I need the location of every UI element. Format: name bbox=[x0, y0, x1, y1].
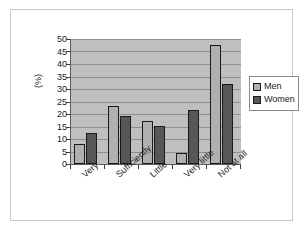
bar-group bbox=[173, 39, 207, 164]
bar-group bbox=[207, 39, 241, 164]
legend-swatch-men-icon bbox=[253, 83, 261, 91]
bar-men-sufficiently[interactable] bbox=[108, 106, 119, 164]
bar-women-very-little[interactable] bbox=[188, 110, 199, 164]
figure-frame: (%) 50454035302520151050 VerySufficientl… bbox=[10, 9, 293, 221]
y-axis-label: (%) bbox=[33, 74, 43, 88]
legend-label: Women bbox=[264, 95, 295, 104]
legend-swatch-women-icon bbox=[253, 96, 261, 104]
bar-men-very[interactable] bbox=[74, 144, 85, 164]
legend-item-men[interactable]: Men bbox=[253, 80, 295, 93]
bar-women-very[interactable] bbox=[86, 133, 97, 164]
legend-item-women[interactable]: Women bbox=[253, 93, 295, 106]
bar-group bbox=[71, 39, 105, 164]
bar-women-little[interactable] bbox=[154, 126, 165, 164]
bar-group bbox=[105, 39, 139, 164]
x-tick-mark bbox=[240, 165, 241, 169]
x-tick-mark bbox=[70, 165, 71, 169]
x-tick-mark bbox=[138, 165, 139, 169]
chart-figure: (%) 50454035302520151050 VerySufficientl… bbox=[0, 0, 305, 232]
y-axis-ticks: 50454035302520151050 bbox=[45, 32, 67, 172]
bar-men-not-at-all[interactable] bbox=[210, 45, 221, 164]
x-tick-mark bbox=[104, 165, 105, 169]
bar-men-very-little[interactable] bbox=[176, 153, 187, 164]
bar-women-not-at-all[interactable] bbox=[222, 84, 233, 164]
y-tick-label: 45 bbox=[57, 48, 67, 57]
chart-legend: MenWomen bbox=[249, 76, 299, 111]
x-tick-mark bbox=[172, 165, 173, 169]
bar-series-container bbox=[71, 39, 241, 164]
plot-area bbox=[70, 39, 241, 165]
legend-label: Men bbox=[264, 82, 282, 91]
x-tick-mark bbox=[206, 165, 207, 169]
